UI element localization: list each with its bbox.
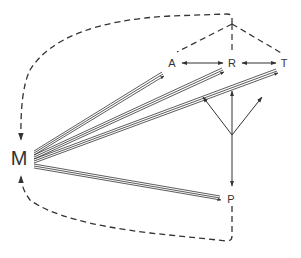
node-r-label: R xyxy=(228,58,236,69)
triple-arrow-m-to-r xyxy=(34,68,224,159)
dashed-feedback-top xyxy=(21,14,232,140)
dashed-feedback-bottom xyxy=(21,176,232,241)
node-p-label: P xyxy=(227,194,234,205)
node-m-label: M xyxy=(11,148,28,168)
triple-arrow-m-to-t xyxy=(34,69,278,163)
node-t-label: T xyxy=(281,58,288,69)
triple-arrow-m-to-a xyxy=(34,72,164,155)
node-a-label: A xyxy=(168,58,175,69)
triple-arrow-m-to-p xyxy=(34,164,221,200)
diagram-canvas xyxy=(0,0,301,258)
dashed-apex-to-t xyxy=(232,24,283,54)
y-arrow-left xyxy=(203,97,232,135)
y-arrow-right xyxy=(232,97,262,135)
dashed-apex-to-a xyxy=(177,24,232,52)
